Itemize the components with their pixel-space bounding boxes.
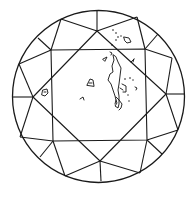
crystal-inclusion bbox=[80, 97, 84, 100]
crystal-inclusion-upper-right bbox=[124, 37, 131, 43]
feather-extension bbox=[120, 84, 126, 92]
crystal-inclusion-left bbox=[42, 89, 48, 96]
diamond-plot-diagram bbox=[0, 0, 193, 197]
main-facet-lines bbox=[13, 11, 184, 181]
upper-girdle-facet-lines bbox=[19, 17, 178, 176]
crystal-inclusion bbox=[110, 52, 112, 55]
crystal-inclusion bbox=[103, 57, 107, 61]
girdle-outline bbox=[13, 11, 185, 183]
crystal-inclusion-a bbox=[87, 79, 94, 86]
inclusions bbox=[42, 29, 137, 110]
crystal-inclusion bbox=[131, 59, 134, 62]
